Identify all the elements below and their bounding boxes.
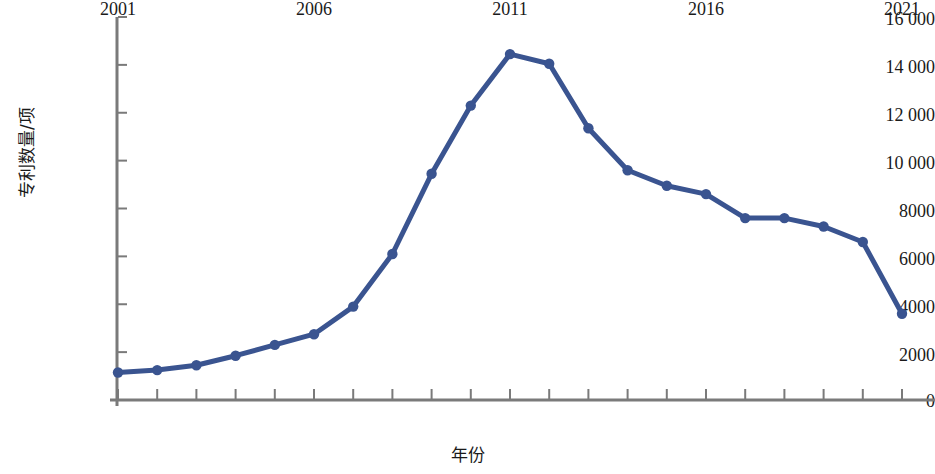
data-point <box>152 365 162 375</box>
data-point <box>622 165 632 175</box>
data-point <box>387 249 397 259</box>
data-point <box>818 221 828 231</box>
data-point <box>583 123 593 133</box>
axes <box>110 17 935 406</box>
data-point <box>348 301 358 311</box>
data-point <box>662 181 672 191</box>
data-point <box>779 213 789 223</box>
data-point <box>230 351 240 361</box>
data-point <box>270 340 280 350</box>
data-point <box>505 49 515 59</box>
data-point <box>544 59 554 69</box>
data-point <box>113 367 123 377</box>
data-point <box>466 100 476 110</box>
data-point <box>897 309 907 319</box>
data-point <box>426 169 436 179</box>
plot-area <box>0 0 935 474</box>
data-point <box>309 329 319 339</box>
line-chart: 专利数量/项 16 000 14 000 12 000 10 000 8000 … <box>0 0 935 474</box>
data-series <box>113 49 907 378</box>
data-point <box>858 237 868 247</box>
data-point <box>701 189 711 199</box>
data-point <box>191 360 201 370</box>
data-point <box>740 213 750 223</box>
